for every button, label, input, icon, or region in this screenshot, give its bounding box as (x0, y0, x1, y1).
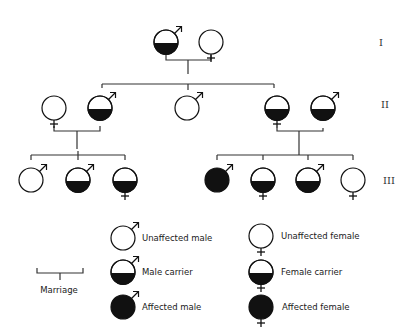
legend-affected-female-symbol (249, 295, 273, 327)
generation-label-I: I (379, 37, 383, 48)
legend-female-carrier-label: Female carrier (281, 267, 343, 277)
legend-affected-male-label: Affected male (142, 302, 201, 312)
individual-III-3-female-carrier (113, 168, 137, 200)
legend-male-carrier-label: Male carrier (142, 267, 193, 277)
legend-female-carrier-symbol (249, 260, 273, 292)
legend-unaffected-female-symbol (249, 224, 273, 256)
generation-label-III: III (383, 175, 395, 186)
individual-III-5-female-carrier (251, 168, 275, 200)
individual-I-2-female-unaffected (199, 30, 223, 62)
legend-marriage-label: Marriage (40, 285, 78, 295)
pedigree-diagram: I II III Marriage Unaffected male Male c… (0, 0, 412, 328)
individual-II-3-female-carrier (265, 96, 289, 128)
legend-affected-female-label: Affected female (282, 302, 350, 312)
legend-marriage: Marriage (37, 268, 83, 295)
individual-III-7-female-unaffected (341, 168, 365, 200)
legend-unaffected-male-label: Unaffected male (142, 233, 212, 243)
legend-affected-male-symbol (111, 292, 139, 320)
legend-unaffected-female-label: Unaffected female (281, 231, 360, 241)
individual-III-2-male-carrier (66, 165, 94, 194)
legend-male-carrier-symbol (111, 257, 139, 286)
individual-II-2-male-unaffected (175, 93, 203, 121)
individual-I-1-male-carrier (154, 27, 182, 56)
individual-III-1-male-unaffected (19, 165, 47, 193)
generation-label-II: II (381, 99, 389, 110)
individual-II-spouse1-female-unaffected (42, 96, 66, 128)
individual-III-4-male-affected (205, 165, 233, 193)
legend-unaffected-male-symbol (111, 223, 139, 251)
individual-II-1-male-carrier (88, 93, 116, 122)
legend: Marriage Unaffected male Male carrier Af… (37, 223, 360, 328)
individual-II-spouse2-male-carrier (311, 93, 339, 122)
individual-III-6-male-carrier (296, 165, 324, 194)
